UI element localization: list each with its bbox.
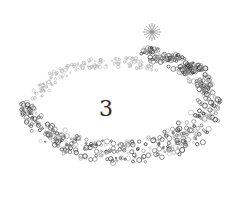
- star-burst-icon: [143, 23, 161, 41]
- glitter-trail: [0, 0, 235, 198]
- sparkle-swirl-illustration: 3: [0, 0, 235, 198]
- number-three: 3: [96, 96, 116, 122]
